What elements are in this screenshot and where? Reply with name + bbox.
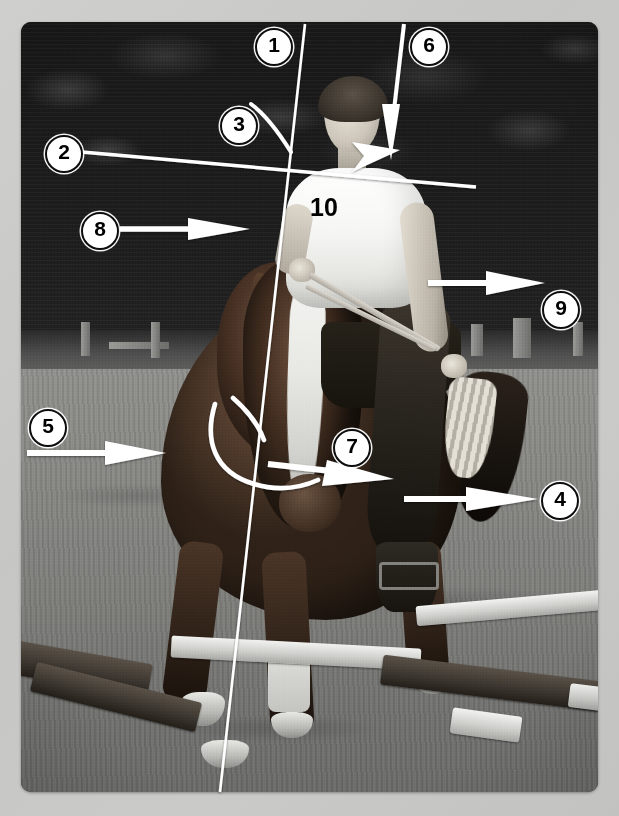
rider-right-hand (441, 354, 467, 378)
photo-scene (21, 22, 598, 792)
horse-muzzle (279, 474, 341, 532)
marker-5: 5 (29, 409, 67, 447)
marker-2: 2 (45, 135, 83, 173)
fence-post (81, 322, 90, 356)
fence-post (513, 318, 531, 358)
marker-9: 9 (542, 291, 580, 329)
fence-post (109, 342, 169, 349)
shirt-number-label: 10 (310, 193, 338, 222)
marker-8: 8 (81, 212, 119, 250)
fence-post (151, 322, 160, 358)
marker-4: 4 (541, 482, 579, 520)
fence-post (471, 324, 483, 356)
marker-3: 3 (220, 107, 258, 145)
fence-post (573, 322, 583, 356)
marker-1: 1 (255, 28, 293, 66)
page-root: 1 2 3 4 5 6 7 8 9 10 (0, 0, 619, 816)
marker-6: 6 (410, 28, 448, 66)
annotated-photo (21, 22, 598, 792)
marker-7: 7 (333, 429, 371, 467)
stirrup-icon (379, 562, 439, 590)
